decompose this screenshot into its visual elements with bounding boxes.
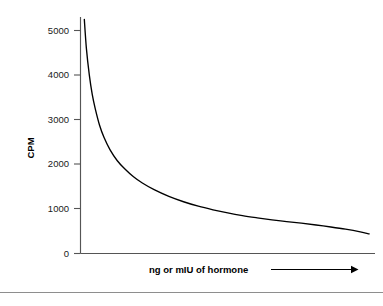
y-tick-label: 0: [64, 248, 69, 259]
y-tick-label: 3000: [48, 114, 69, 125]
y-axis-title: CPM: [25, 137, 36, 158]
y-tick-label: 2000: [48, 158, 69, 169]
y-tick-label: 5000: [48, 25, 69, 36]
chart-background: [0, 0, 383, 306]
y-tick-label: 4000: [48, 69, 69, 80]
y-tick-label: 1000: [48, 203, 69, 214]
x-axis-title: ng or mIU of hormone: [149, 264, 248, 275]
standard-curve-chart: 5000 4000 3000 2000 1000 0 CPM ng or mIU…: [0, 0, 383, 306]
figure-container: 5000 4000 3000 2000 1000 0 CPM ng or mIU…: [0, 0, 383, 306]
